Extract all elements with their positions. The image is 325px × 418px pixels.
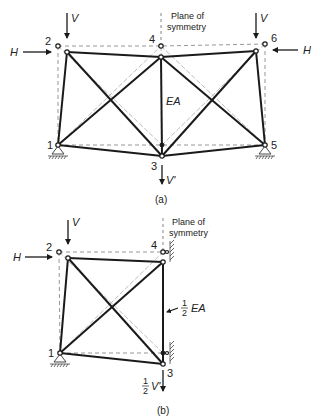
node-4-undeformed-b [161, 250, 165, 254]
leader-arrow-half-ea [167, 308, 178, 312]
label-h-left: H [10, 46, 18, 58]
node-2-undeformed [56, 44, 60, 48]
label-v-right: V [260, 12, 269, 24]
node-4-deformed-b [161, 260, 165, 264]
label-v-left: V [71, 12, 80, 24]
caption-b: (b) [157, 405, 169, 416]
node-3-deformed [160, 154, 164, 158]
node-1-b [58, 351, 62, 355]
node-label-5: 5 [271, 139, 277, 151]
svg-text:2: 2 [143, 386, 148, 396]
label-h-b: H [13, 251, 21, 263]
undeformed-geometry-b [59, 252, 163, 353]
node-label-4-b: 4 [151, 239, 157, 251]
truss-diagram: V V H H V' EA 2 4 6 1 3 5 Plane of symme… [0, 0, 325, 418]
label-ea: EA [166, 95, 181, 107]
symmetry-wall-bottom [166, 341, 175, 364]
svg-text:V': V' [151, 380, 161, 392]
symmetry-label-line1: Plane of [171, 11, 205, 21]
node-3-undeformed-b [161, 351, 165, 355]
caption-a: (a) [155, 194, 167, 205]
node-2-undeformed-b [57, 250, 61, 254]
label-half-ea: 1 2 EA [181, 298, 206, 318]
label-half-v-prime: 1 2 V' [142, 376, 161, 396]
svg-text:2: 2 [182, 308, 187, 318]
label-v-b: V [72, 216, 81, 228]
node-1 [56, 143, 60, 147]
node-4-undeformed [159, 44, 163, 48]
deformed-members [58, 51, 265, 156]
node-4-deformed [159, 55, 163, 59]
label-v-prime: V' [166, 174, 176, 186]
svg-text:EA: EA [191, 302, 206, 314]
node-2-deformed [65, 50, 69, 54]
svg-text:1: 1 [182, 298, 187, 308]
node-label-2: 2 [45, 35, 51, 47]
node-label-6: 6 [271, 32, 277, 44]
node-3-deformed-b [161, 362, 165, 366]
node-6-undeformed [263, 42, 267, 46]
node-5 [263, 143, 267, 147]
svg-text:1: 1 [143, 376, 148, 386]
symmetry-label-b-line1: Plane of [172, 217, 206, 227]
node-2-deformed-b [66, 256, 70, 260]
node-label-4: 4 [149, 33, 155, 45]
panel-a: V V H H V' EA 2 4 6 1 3 5 Plane of symme… [10, 11, 311, 205]
node-label-3-b: 3 [167, 367, 173, 379]
panel-b: V H 2 4 1 3 1 2 EA 1 2 V' Plane of symme… [13, 216, 208, 416]
node-label-1: 1 [47, 139, 53, 151]
deformed-members-b [60, 258, 163, 364]
vertical-member-ea [161, 57, 162, 156]
symmetry-label-b-line2: symmetry [169, 228, 208, 238]
node-label-2-b: 2 [46, 241, 52, 253]
node-6-deformed [254, 49, 258, 53]
node-label-1-b: 1 [48, 347, 54, 359]
symmetry-wall-top [166, 240, 175, 262]
symmetry-label-line2: symmetry [167, 22, 206, 32]
node-label-3: 3 [151, 160, 157, 172]
label-h-right: H [303, 44, 311, 56]
node-3-undeformed [160, 143, 164, 147]
